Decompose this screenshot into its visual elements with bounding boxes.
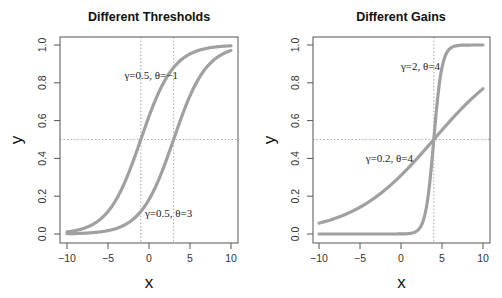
y-tick-label: 0.6: [36, 113, 48, 128]
x-tick-label: −5: [354, 252, 366, 264]
y-tick-label: 0.4: [36, 151, 48, 166]
curve-annotation: γ=0.5, θ=3: [144, 207, 193, 219]
x-tick-label: 10: [477, 252, 489, 264]
x-axis-title: x: [397, 273, 406, 292]
y-tick-label: 0.4: [289, 151, 301, 166]
x-tick-label: 10: [225, 252, 237, 264]
y-axis-title: y: [7, 135, 26, 144]
y-tick-label: 1.0: [36, 38, 48, 53]
y-tick-label: 0.0: [289, 227, 301, 242]
chart-title: Different Thresholds: [88, 10, 210, 24]
y-tick-label: 0.6: [289, 113, 301, 128]
x-tick-label: 5: [439, 252, 445, 264]
curve-annotation: γ=0.2, θ=4: [365, 152, 414, 164]
curve-annotation: γ=2, θ=4: [400, 60, 441, 72]
y-tick-label: 0.8: [36, 75, 48, 90]
chart-canvas: Different Thresholds−10−505100.00.20.40.…: [0, 0, 502, 298]
x-tick-label: 0: [146, 252, 152, 264]
y-tick-label: 0.2: [36, 189, 48, 204]
x-axis-title: x: [145, 273, 154, 292]
y-tick-label: 0.8: [289, 75, 301, 90]
y-axis-title: y: [260, 135, 279, 144]
x-tick-label: −10: [310, 252, 328, 264]
x-tick-label: 5: [187, 252, 193, 264]
x-tick-label: −10: [58, 252, 76, 264]
y-tick-label: 0.0: [36, 227, 48, 242]
y-tick-label: 0.2: [289, 189, 301, 204]
x-tick-label: 0: [398, 252, 404, 264]
y-tick-label: 1.0: [289, 38, 301, 53]
curve-annotation: γ=0.5, θ=−1: [124, 69, 179, 81]
x-tick-label: −5: [102, 252, 114, 264]
chart-title: Different Gains: [356, 10, 446, 24]
